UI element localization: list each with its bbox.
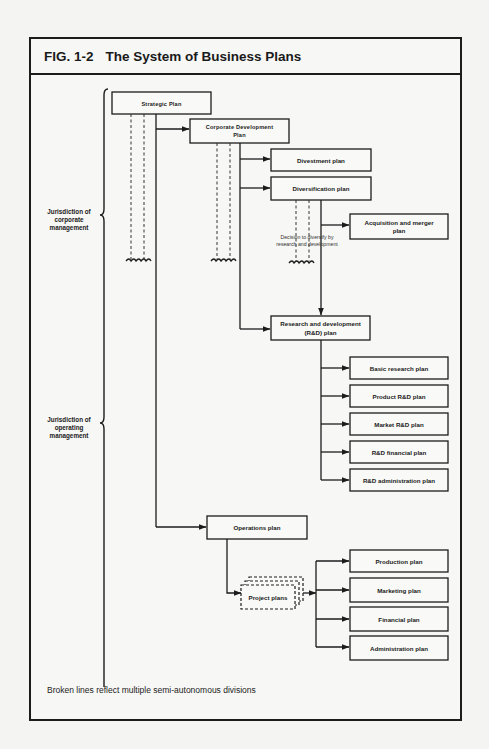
production-plan-box: Production plan: [350, 550, 448, 572]
svg-text:Financial plan: Financial plan: [378, 616, 419, 623]
svg-text:Corporate Development: Corporate Development: [206, 124, 274, 130]
svg-text:Product R&D plan: Product R&D plan: [373, 393, 426, 400]
svg-text:Administration plan: Administration plan: [370, 645, 428, 652]
svg-text:corporate: corporate: [54, 216, 84, 224]
administration-plan-box: Administration plan: [350, 636, 448, 660]
svg-text:Basic research plan: Basic research plan: [370, 365, 429, 372]
svg-text:Plan: Plan: [233, 132, 246, 138]
svg-text:R&D administration plan: R&D administration plan: [363, 477, 435, 484]
svg-text:operating: operating: [55, 424, 84, 432]
svg-text:Jurisdiction of: Jurisdiction of: [47, 416, 91, 423]
divestment-plan-box: Divestment plan: [271, 149, 371, 171]
svg-text:Decision to diversify by: Decision to diversify by: [280, 234, 333, 240]
basic-research-plan-box: Basic research plan: [350, 357, 448, 379]
diversification-plan-box: Diversification plan: [271, 177, 371, 200]
svg-text:management: management: [50, 432, 90, 440]
svg-text:Market R&D plan: Market R&D plan: [374, 421, 424, 428]
svg-text:Strategic Plan: Strategic Plan: [141, 101, 181, 107]
rd-financial-plan-box: R&D financial plan: [350, 441, 448, 463]
project-plans-box: Project plans: [241, 577, 303, 609]
svg-text:research and development: research and development: [276, 241, 338, 247]
svg-text:Divestment plan: Divestment plan: [297, 157, 345, 164]
svg-text:Research and development: Research and development: [280, 320, 360, 327]
corporate-brace: [100, 89, 108, 315]
acquisition-merger-plan-box: Acquisition and merger plan: [350, 214, 448, 239]
svg-text:Production plan: Production plan: [375, 558, 422, 565]
svg-text:Diversification plan: Diversification plan: [292, 185, 349, 192]
jurisdiction-corporate-label: Jurisdiction of corporate management: [47, 208, 91, 232]
operating-brace: [100, 315, 104, 687]
svg-text:Project plans: Project plans: [249, 594, 288, 601]
business-plans-diagram: Jurisdiction of corporate management Jur…: [31, 39, 464, 723]
figure-footnote: Broken lines reflect multiple semi-auton…: [47, 685, 256, 695]
product-rd-plan-box: Product R&D plan: [350, 385, 448, 407]
rd-plan-box: Research and development (R&D) plan: [271, 316, 370, 340]
svg-text:Acquisition and merger: Acquisition and merger: [364, 219, 434, 226]
financial-plan-box: Financial plan: [350, 607, 448, 631]
diversify-decision-note: Decision to diversify by research and de…: [276, 234, 338, 247]
market-rd-plan-box: Market R&D plan: [350, 413, 448, 435]
svg-text:plan: plan: [393, 227, 406, 234]
jurisdiction-operating-label: Jurisdiction of operating management: [47, 416, 91, 440]
operations-plan-box: Operations plan: [207, 516, 307, 539]
svg-text:R&D financial plan: R&D financial plan: [372, 449, 427, 456]
rd-administration-plan-box: R&D administration plan: [350, 469, 448, 491]
svg-text:(R&D) plan: (R&D) plan: [305, 329, 337, 336]
svg-text:management: management: [50, 224, 90, 232]
strategic-plan-box: Strategic Plan: [112, 92, 211, 114]
svg-text:Jurisdiction of: Jurisdiction of: [47, 208, 91, 215]
svg-text:Operations plan: Operations plan: [233, 524, 280, 531]
figure-frame: FIG. 1-2 The System of Business Plans Ju…: [29, 37, 462, 721]
corporate-development-plan-box: Corporate Development Plan: [190, 119, 289, 143]
svg-text:Marketing plan: Marketing plan: [377, 587, 421, 594]
marketing-plan-box: Marketing plan: [350, 578, 448, 602]
